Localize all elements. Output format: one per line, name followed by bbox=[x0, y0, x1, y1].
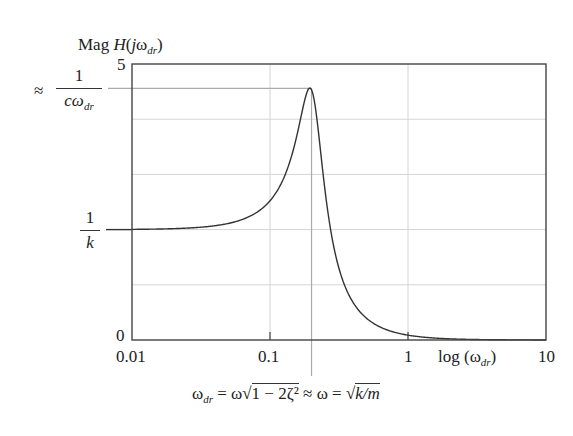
formula-omega: ω bbox=[192, 384, 203, 403]
x-title-log: log (ω bbox=[438, 347, 481, 366]
formula-sub: dr bbox=[203, 393, 213, 405]
y-tick-5: 5 bbox=[117, 56, 126, 73]
annotation-lines bbox=[106, 88, 312, 376]
y-title-h: H bbox=[113, 35, 125, 54]
grid-lines bbox=[132, 64, 546, 340]
x-tick-1: 1 bbox=[404, 348, 413, 365]
peak-den-sub: dr bbox=[84, 100, 94, 112]
formula-radicand: 1 − 2ζ² bbox=[252, 383, 299, 403]
y-title-mag: Mag bbox=[78, 35, 113, 54]
y-title-omega: ω bbox=[136, 35, 147, 54]
formula-radicand-km: k/m bbox=[355, 383, 380, 403]
sqrt-icon: √ bbox=[242, 384, 251, 403]
x-title-sub: dr bbox=[481, 356, 491, 368]
y-axis-title: Mag H(jωdr) bbox=[78, 36, 163, 53]
x-title-close: ) bbox=[491, 347, 497, 366]
x-tick-10: 10 bbox=[538, 348, 555, 365]
axis-ticks bbox=[270, 332, 408, 340]
y-tick-0: 0 bbox=[116, 327, 125, 344]
static-gain-fraction: 1 k bbox=[80, 208, 100, 253]
peak-den-c: cω bbox=[64, 91, 84, 110]
y-title-sub: dr bbox=[147, 44, 157, 56]
static-numerator: 1 bbox=[80, 208, 100, 230]
formula-eq: = ω bbox=[213, 384, 242, 403]
formula-approx: ≈ ω = bbox=[299, 384, 346, 403]
x-tick-0.1: 0.1 bbox=[258, 348, 279, 365]
sqrt-icon: √ bbox=[346, 384, 355, 403]
y-title-paren-close: ) bbox=[157, 35, 163, 54]
peak-fraction: 1 cωdr bbox=[56, 66, 102, 111]
resonance-formula: ωdr = ω√1 − 2ζ² ≈ ω = √k/m bbox=[192, 385, 380, 402]
plot-frame bbox=[132, 64, 546, 340]
static-denominator: k bbox=[80, 231, 100, 253]
x-axis-title: log (ωdr) bbox=[438, 348, 496, 365]
peak-denominator: cωdr bbox=[56, 89, 102, 111]
magnitude-curve bbox=[132, 88, 546, 340]
peak-numerator: 1 bbox=[56, 66, 102, 88]
x-tick-0.01: 0.01 bbox=[116, 348, 146, 365]
peak-approx-symbol: ≈ bbox=[34, 82, 43, 99]
